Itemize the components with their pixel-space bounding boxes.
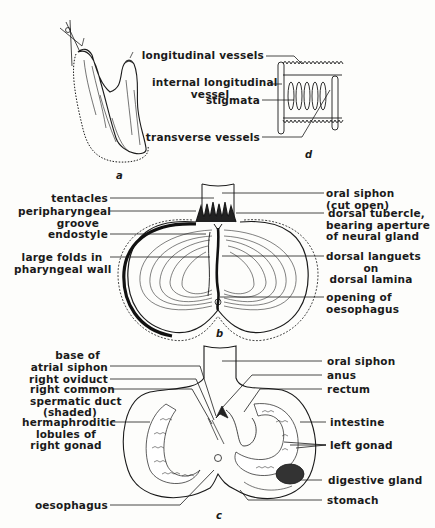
- label-dorsal-tubercle: dorsal tubercle, bearing aperture of neu…: [326, 208, 430, 243]
- label-endostyle: endostyle: [48, 229, 108, 241]
- label-line: right common: [30, 384, 110, 396]
- panel-label-c: c: [216, 510, 222, 521]
- label-right-common-spermatic-duct: right common spermatic duct (shaded): [30, 384, 110, 419]
- label-line: dorsal languets: [326, 251, 416, 263]
- panel-label-a: a: [116, 170, 123, 181]
- label-oral-siphon: oral siphon: [327, 356, 395, 368]
- label-intestine: intestine: [330, 417, 384, 429]
- label-left-gonad: left gonad: [330, 440, 393, 452]
- label-line: base of: [31, 350, 108, 362]
- label-line: dorsal tubercle,: [326, 208, 430, 220]
- panel-label-b: b: [216, 328, 223, 339]
- label-line: of neural gland: [326, 231, 430, 243]
- label-opening-of-oesophagus: opening of oesophagus: [326, 292, 392, 315]
- label-rectum: rectum: [327, 384, 370, 396]
- label-base-of-atrial-siphon: base of atrial siphon: [31, 350, 108, 373]
- panel-c-drawing: [123, 346, 315, 499]
- label-line: opening of: [326, 292, 392, 304]
- label-line: dorsal lamina: [326, 274, 416, 286]
- label-line: large folds in: [14, 252, 110, 264]
- label-anus: anus: [327, 370, 356, 382]
- label-line: hermaphroditic: [22, 417, 110, 429]
- label-stigmata: stigmata: [206, 95, 260, 107]
- label-dorsal-languets: dorsal languets on dorsal lamina: [326, 251, 416, 286]
- label-large-folds: large folds in pharyngeal wall: [14, 252, 110, 275]
- panel-a-drawing: [60, 20, 148, 162]
- panel-label-d: d: [305, 149, 312, 160]
- label-transverse-vessels: transverse vessels: [146, 132, 260, 144]
- label-line: oral siphon: [326, 188, 394, 200]
- label-peripharyngeal-groove: peripharyngeal groove: [18, 206, 110, 229]
- label-stomach: stomach: [327, 495, 379, 507]
- label-line: peripharyngeal: [18, 206, 110, 218]
- label-digestive-gland: digestive gland: [328, 475, 422, 487]
- label-tentacles: tentacles: [51, 193, 108, 205]
- label-line: internal longitudinal: [152, 77, 268, 89]
- label-line: pharyngeal wall: [14, 264, 110, 276]
- label-line: atrial siphon: [31, 362, 108, 374]
- label-oesophagus: oesophagus: [35, 500, 108, 512]
- panel-b-drawing: [118, 184, 318, 341]
- label-hermaphroditic-lobules: hermaphroditic lobules of right gonad: [22, 417, 110, 452]
- label-longitudinal-vessels: longitudinal vessels: [142, 50, 264, 62]
- label-line: right gonad: [22, 440, 110, 452]
- label-line: oesophagus: [326, 304, 392, 316]
